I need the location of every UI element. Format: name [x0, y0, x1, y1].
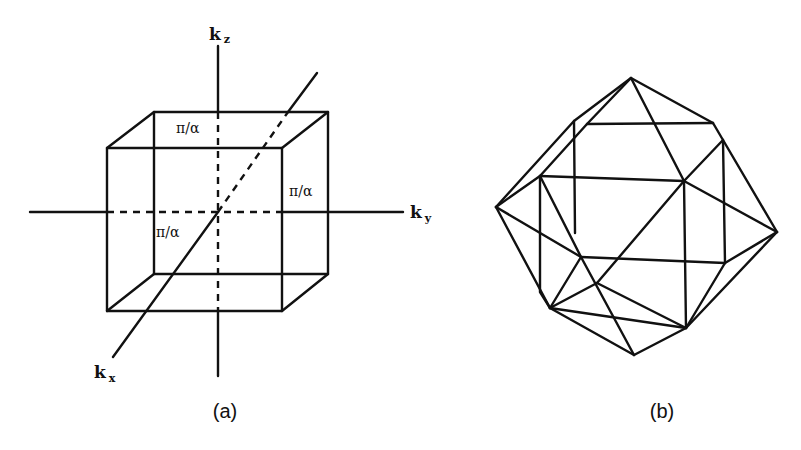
cube-edge	[107, 112, 154, 148]
kx-axis-inside	[218, 112, 288, 212]
poly-edge	[597, 181, 684, 283]
dim-label-front: π/α	[156, 224, 180, 240]
poly-edge	[540, 176, 550, 308]
poly-edge	[684, 140, 723, 181]
poly-edge	[634, 328, 686, 355]
kx-axis-back	[288, 73, 317, 112]
cube-edge	[282, 274, 328, 311]
dim-label-top: π/α	[176, 120, 200, 136]
cube-edge	[282, 112, 328, 148]
caption-a: (a)	[213, 400, 237, 422]
cube-edge	[107, 274, 154, 311]
poly-edge	[581, 257, 725, 263]
dim-label-right: π/α	[289, 183, 313, 199]
poly-edge	[684, 181, 686, 328]
kz-label: kz	[209, 24, 230, 46]
poly-edge	[496, 78, 631, 207]
caption-b: (b)	[650, 400, 674, 422]
panel-b-polyhedron	[496, 78, 777, 355]
poly-edge	[496, 78, 631, 207]
ky-label: ky	[410, 202, 432, 225]
panel-a-axes	[30, 46, 403, 376]
poly-edge	[587, 123, 713, 124]
cube-front-face	[107, 148, 282, 311]
figure-canvas: kz ky kx π/α π/α π/α (a)	[0, 0, 801, 450]
poly-edge	[540, 176, 684, 181]
kx-label: kx	[94, 362, 116, 385]
poly-edge	[686, 232, 777, 328]
poly-edge	[686, 263, 725, 328]
panel-a-labels: kz ky kx π/α π/α π/α (a)	[94, 24, 432, 422]
